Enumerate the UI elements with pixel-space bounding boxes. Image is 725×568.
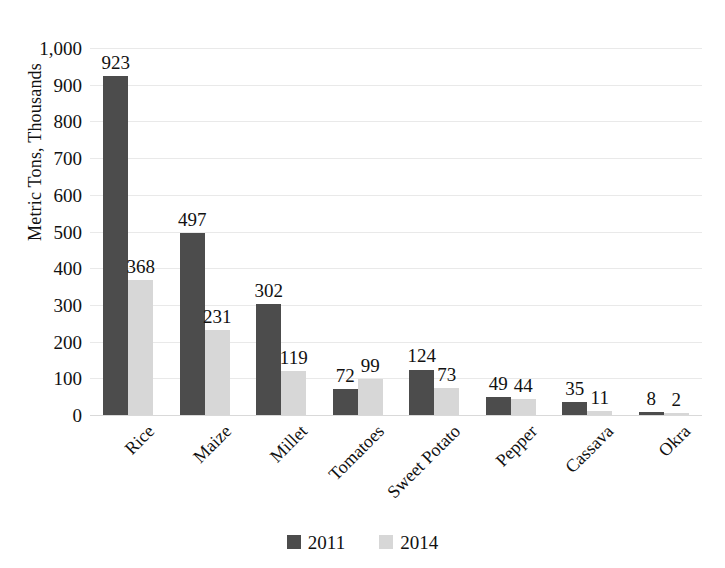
legend-swatch-icon [379, 535, 393, 549]
bar-2014[interactable] [205, 330, 230, 415]
bar-group: 7299 [320, 48, 397, 415]
x-axis-tick-labels: RiceMaizeMilletTomatoesSweet PotatoPeppe… [90, 415, 702, 505]
x-axis-label-cassava: Cassava [562, 421, 618, 477]
bar-chart: Metric Tons, Thousands 1,000900800700600… [0, 0, 725, 568]
bar-2011[interactable] [180, 233, 205, 415]
bar-value-label: 302 [255, 281, 284, 300]
bar-group: 12473 [396, 48, 473, 415]
x-axis-label-maize: Maize [189, 421, 235, 467]
bar-value-label: 124 [408, 346, 437, 365]
x-axis-label-okra: Okra [654, 421, 694, 461]
legend-item-2011[interactable]: 2011 [287, 533, 345, 552]
y-axis-tick-label: 0 [12, 406, 82, 425]
bar-2014[interactable] [128, 280, 153, 415]
bar-2014[interactable] [511, 399, 536, 415]
x-axis-label-tomatoes: Tomatoes [324, 421, 387, 484]
bar-value-label: 72 [336, 366, 355, 385]
x-axis-label-millet: Millet [266, 421, 311, 466]
y-axis-tick-labels: 1,0009008007006005004003002001000 [10, 48, 82, 415]
bar-value-label: 35 [565, 379, 584, 398]
legend-item-2014[interactable]: 2014 [379, 533, 438, 552]
bar-2011[interactable] [256, 304, 281, 415]
bar-value-label: 8 [647, 389, 657, 408]
bar-2011[interactable] [562, 402, 587, 415]
x-axis-label-pepper: Pepper [491, 421, 540, 470]
y-axis-tick-label: 700 [12, 149, 82, 168]
y-axis-tick-label: 600 [12, 185, 82, 204]
bar-value-label: 2 [672, 390, 682, 409]
bar-2011[interactable] [409, 370, 434, 416]
y-axis-tick-label: 500 [12, 222, 82, 241]
bar-2011[interactable] [333, 389, 358, 415]
y-axis-tick-label: 1,000 [12, 39, 82, 58]
legend-label: 2014 [400, 533, 438, 552]
bar-2014[interactable] [434, 388, 459, 415]
y-axis-tick-label: 400 [12, 259, 82, 278]
bar-value-label: 11 [591, 388, 609, 407]
legend-swatch-icon [287, 535, 301, 549]
bar-2014[interactable] [281, 371, 306, 415]
chart-legend: 20112014 [0, 527, 725, 557]
bar-2011[interactable] [486, 397, 511, 415]
bar-value-label: 73 [437, 365, 456, 384]
x-axis-label-sweet-potato: Sweet Potato [383, 421, 464, 502]
bar-2014[interactable] [358, 379, 383, 415]
bar-value-label: 923 [102, 53, 131, 72]
bar-value-label: 49 [489, 374, 508, 393]
x-axis-label-rice: Rice [121, 421, 158, 458]
bar-2011[interactable] [103, 76, 128, 415]
y-axis-tick-label: 800 [12, 112, 82, 131]
bar-value-label: 99 [361, 356, 380, 375]
y-axis-tick-label: 300 [12, 295, 82, 314]
bar-value-label: 368 [127, 257, 156, 276]
bar-group: 3511 [549, 48, 626, 415]
bar-group: 4944 [473, 48, 550, 415]
y-axis-tick-label: 200 [12, 332, 82, 351]
bar-value-label: 44 [514, 376, 533, 395]
bar-group: 82 [626, 48, 703, 415]
plot-area: 9233684972313021197299124734944351182 [90, 48, 702, 415]
bar-group: 923368 [90, 48, 167, 415]
legend-label: 2011 [308, 533, 345, 552]
bar-group: 497231 [167, 48, 244, 415]
y-axis-tick-label: 900 [12, 75, 82, 94]
bar-group: 302119 [243, 48, 320, 415]
bar-value-label: 231 [203, 307, 232, 326]
y-axis-tick-label: 100 [12, 369, 82, 388]
bar-value-label: 497 [178, 210, 207, 229]
bar-value-label: 119 [280, 348, 308, 367]
